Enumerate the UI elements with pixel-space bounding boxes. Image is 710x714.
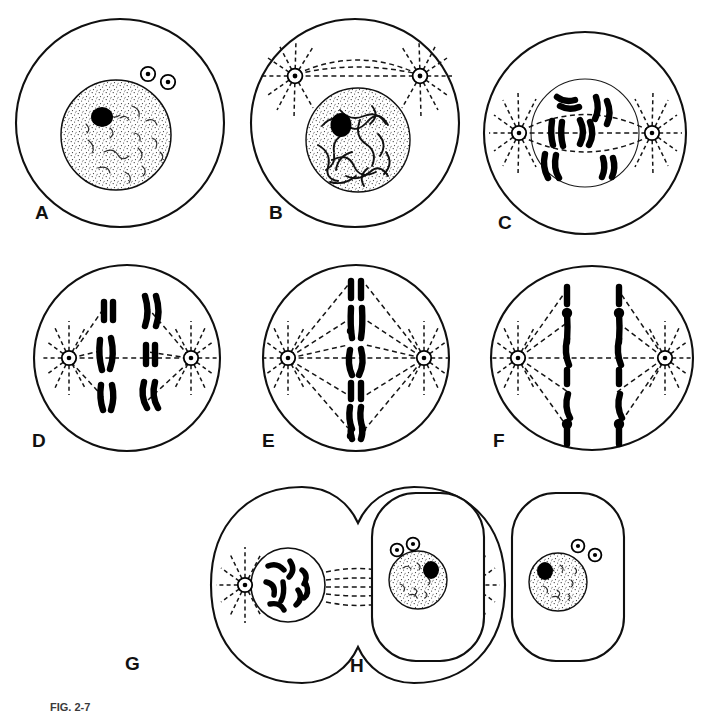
nucleus-left-h [389, 551, 447, 609]
centriole-left-f [511, 351, 525, 365]
panel-letter-d: D [32, 430, 46, 451]
mitosis-figure: A [0, 0, 710, 714]
centriole-right-b [413, 69, 428, 84]
centriole-right-e [417, 351, 431, 365]
nucleus-a [61, 80, 171, 190]
daughter-nucleus-left-g [251, 548, 325, 622]
panel-letter-h: H [350, 655, 364, 676]
panel-e-metaphase: E [260, 265, 452, 451]
figure-caption: FIG. 2-7 [50, 701, 90, 713]
centriole-right-f [658, 351, 672, 365]
panel-d-prometaphase: D [32, 265, 220, 451]
nucleus-b [306, 88, 410, 192]
panel-letter-g: G [125, 653, 140, 674]
centriole-left-d [62, 351, 76, 365]
centriole-left-b [288, 69, 303, 84]
panel-b-early-prophase: B [251, 19, 459, 227]
centriole-left-e [281, 351, 295, 365]
centriole-right-c [645, 126, 659, 140]
panel-letter-f: F [493, 430, 505, 451]
centriole-right-d [184, 351, 198, 365]
centriole-left-c [512, 126, 526, 140]
panel-letter-b: B [269, 202, 283, 223]
nucleolus-b [331, 113, 352, 137]
nucleus-right-h [529, 553, 587, 611]
figure-canvas: A [0, 0, 710, 714]
panel-a-interphase: A [16, 19, 224, 227]
panel-letter-e: E [262, 430, 275, 451]
panel-f-anaphase: F [490, 266, 693, 451]
centriole-left-g [238, 578, 252, 592]
nucleolus-left-h [423, 561, 439, 579]
nucleolus-a [91, 107, 113, 127]
nucleolus-right-h [537, 562, 553, 580]
panel-letter-c: C [498, 212, 512, 233]
panel-c-late-prophase: C [484, 32, 686, 234]
panel-letter-a: A [35, 202, 49, 223]
